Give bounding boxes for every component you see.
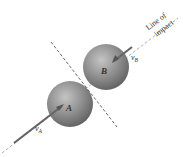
sphere-b-label: B bbox=[100, 66, 107, 76]
line-of-impact-label: Line of impact bbox=[144, 10, 176, 41]
impact-diagram: A B vA vB Line of impact bbox=[0, 0, 183, 157]
sphere-a-label: A bbox=[65, 103, 72, 113]
velocity-b-label: vB bbox=[131, 53, 139, 63]
velocity-a-arrow bbox=[14, 104, 64, 143]
velocity-a-label: vA bbox=[35, 124, 43, 134]
